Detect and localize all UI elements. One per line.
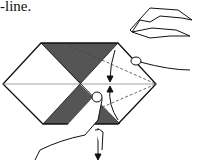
- hand-top-right: [130, 8, 192, 70]
- origami-diagram: [0, 0, 197, 161]
